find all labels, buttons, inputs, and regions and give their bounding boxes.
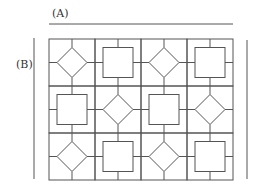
diamond-shape	[103, 95, 133, 125]
diamond-shape	[195, 95, 225, 125]
diamond-shape	[149, 142, 179, 172]
diamond-shape	[149, 48, 179, 78]
square-shape	[195, 142, 225, 172]
square-shape	[103, 48, 133, 78]
tile-grid-diagram	[0, 0, 257, 191]
square-shape	[149, 95, 179, 125]
square-shape	[57, 95, 87, 125]
grid-cells	[49, 39, 233, 180]
square-shape	[195, 48, 225, 78]
diamond-shape	[57, 48, 87, 78]
square-shape	[103, 142, 133, 172]
diamond-shape	[57, 142, 87, 172]
